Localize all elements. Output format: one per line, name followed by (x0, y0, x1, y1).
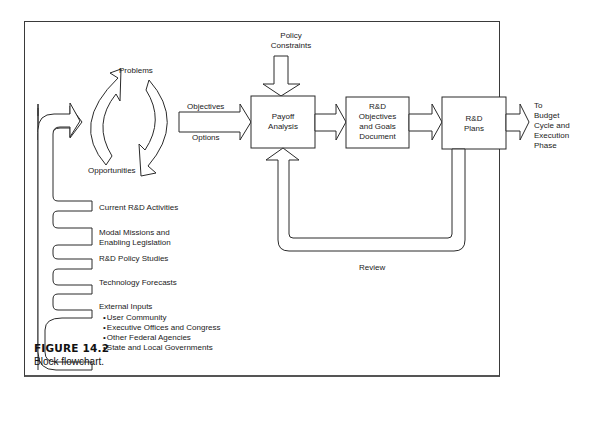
output-line1: To (534, 101, 570, 111)
input-current-activities: Current R&D Activities (99, 203, 178, 213)
output-line3: Cycle and (534, 121, 570, 131)
figure-number: FIGURE 14.2 (34, 342, 109, 354)
output-line4: Execution (534, 131, 570, 141)
opportunities-cycle-arrow (139, 80, 167, 176)
review-feedback-arrow (266, 148, 465, 251)
external-input-item: Other Federal Agencies (103, 333, 221, 343)
plans-line2: Plans (442, 124, 506, 134)
policy-label-line2: Constraints (261, 41, 321, 51)
external-input-item: State and Local Governments (103, 343, 221, 353)
review-label: Review (359, 263, 385, 273)
policy-constraints-label: Policy Constraints (261, 31, 321, 51)
objdoc-line4: Document (346, 132, 409, 142)
input-technology-forecasts: Technology Forecasts (99, 278, 177, 288)
input-bus-arrow (38, 103, 92, 370)
external-input-item: Executive Offices and Congress (103, 323, 221, 333)
objectives-document-text: R&D Objectives and Goals Document (346, 102, 409, 142)
input-modal-missions: Modal Missions and Enabling Legislation (99, 228, 171, 248)
objdoc-line1: R&D (346, 102, 409, 112)
rd-plans-text: R&D Plans (442, 114, 506, 134)
policy-constraints-arrow (263, 56, 300, 96)
payoff-to-objectives-arrow (315, 104, 346, 140)
external-inputs-list: User Community Executive Offices and Con… (103, 313, 221, 353)
output-line2: Budget (534, 111, 570, 121)
figure-caption: Block flowchart. (34, 356, 104, 367)
plans-line1: R&D (442, 114, 506, 124)
objectives-label: Objectives (187, 102, 224, 112)
payoff-line1: Payoff (251, 112, 315, 122)
objectives-to-plans-arrow (409, 104, 442, 140)
external-input-item: User Community (103, 313, 221, 323)
input-policy-studies: R&D Policy Studies (99, 254, 168, 264)
objdoc-line2: Objectives (346, 112, 409, 122)
payoff-analysis-text: Payoff Analysis (251, 112, 315, 132)
modal-missions-line2: Enabling Legislation (99, 238, 171, 248)
output-label: To Budget Cycle and Execution Phase (534, 101, 570, 151)
payoff-line2: Analysis (251, 122, 315, 132)
output-arrow (506, 104, 529, 140)
input-external-inputs: External Inputs (99, 302, 152, 312)
problems-label: Problems (119, 66, 153, 76)
policy-label-line1: Policy (261, 31, 321, 41)
problems-cycle-arrow (91, 69, 121, 165)
modal-missions-line1: Modal Missions and (99, 228, 171, 238)
output-line5: Phase (534, 141, 570, 151)
options-label: Options (192, 133, 220, 143)
opportunities-label: Opportunities (88, 166, 136, 176)
objdoc-line3: and Goals (346, 122, 409, 132)
